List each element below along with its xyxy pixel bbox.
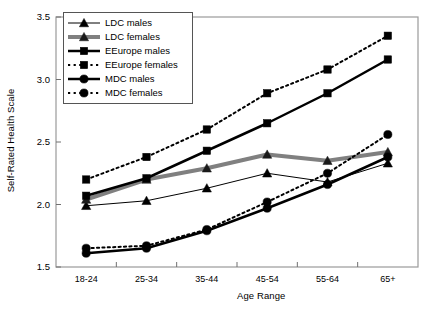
data-point-square-marker: [324, 90, 331, 97]
data-point-circle-marker: [82, 244, 90, 252]
legend-label: EEurope males: [102, 44, 170, 58]
legend-sample-triangle-solid: [66, 30, 102, 44]
data-point-circle-marker: [323, 180, 331, 188]
series-line-mdc-females: [86, 135, 388, 249]
data-point-square-marker: [203, 126, 210, 133]
data-point-circle-marker: [323, 169, 331, 177]
data-point-square-marker: [203, 147, 210, 154]
data-point-square-marker: [384, 32, 391, 39]
legend-label: LDC females: [102, 30, 160, 44]
chart-legend: LDC malesLDC femalesEEurope malesEEurope…: [63, 12, 193, 104]
legend-sample-square-solid: [66, 44, 102, 58]
data-point-square-marker: [82, 176, 89, 183]
y-tick-label: 2.5: [24, 137, 50, 147]
legend-item-eeurope-females: EEurope females: [66, 58, 189, 72]
data-point-circle-marker: [80, 75, 88, 83]
data-point-circle-marker: [384, 130, 392, 138]
x-tick-label: 18-24: [58, 274, 114, 284]
legend-item-eeurope-males: EEurope males: [66, 44, 189, 58]
data-point-square-marker: [80, 61, 87, 68]
series-line-ldc-females: [86, 152, 388, 200]
legend-item-ldc-females: LDC females: [66, 30, 189, 44]
x-tick-label: 45-54: [239, 274, 295, 284]
series-markers-mdc-males: [82, 153, 392, 257]
legend-sample-circle-dotted: [66, 86, 102, 100]
data-point-circle-marker: [80, 89, 88, 97]
data-point-circle-marker: [384, 153, 392, 161]
x-tick-label: 55-64: [300, 274, 356, 284]
y-tick-label: 3.0: [24, 75, 50, 85]
data-point-square-marker: [263, 90, 270, 97]
legend-sample-circle-solid: [66, 72, 102, 86]
x-tick-label: 35-44: [179, 274, 235, 284]
data-point-square-marker: [143, 153, 150, 160]
y-axis-title: Self-Rated Health Scale: [2, 0, 20, 280]
legend-label: LDC males: [102, 16, 152, 30]
series-line-mdc-males: [86, 157, 388, 253]
data-point-square-marker: [263, 120, 270, 127]
data-point-square-marker: [324, 66, 331, 73]
legend-label: MDC females: [102, 86, 163, 100]
series-markers-mdc-females: [82, 130, 392, 252]
data-point-triangle-marker: [263, 169, 272, 177]
legend-item-mdc-males: MDC males: [66, 72, 189, 86]
legend-item-mdc-females: MDC females: [66, 86, 189, 100]
x-tick-label: 25-34: [119, 274, 175, 284]
y-tick-label: 2.0: [24, 200, 50, 210]
x-tick-label: 65+: [360, 274, 416, 284]
legend-sample-triangle-solid: [66, 16, 102, 30]
y-tick-label: 3.5: [24, 12, 50, 22]
legend-label: EEurope females: [102, 58, 178, 72]
legend-sample-square-dotted: [66, 58, 102, 72]
legend-label: MDC males: [102, 72, 155, 86]
data-point-square-marker: [143, 175, 150, 182]
data-point-circle-marker: [203, 225, 211, 233]
y-axis-title-text: Self-Rated Health Scale: [6, 88, 17, 192]
x-axis-title-text: Age Range: [237, 290, 285, 301]
data-point-square-marker: [80, 47, 87, 54]
y-tick-label: 1.5: [24, 262, 50, 272]
data-point-circle-marker: [142, 242, 150, 250]
legend-item-ldc-males: LDC males: [66, 16, 189, 30]
data-point-square-marker: [384, 56, 391, 63]
data-point-square-marker: [82, 192, 89, 199]
data-point-circle-marker: [263, 198, 271, 206]
chart-figure: Self-Rated Health Scale Age Range 1.52.0…: [0, 0, 431, 321]
